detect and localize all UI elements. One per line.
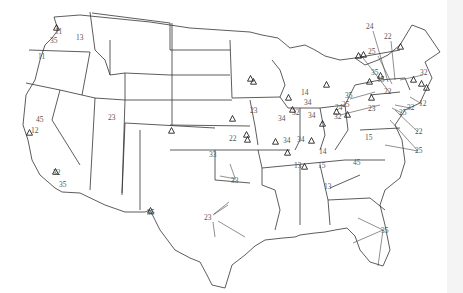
right-margin bbox=[447, 0, 463, 293]
site-value-label: 34 bbox=[283, 137, 291, 145]
site-value-label: 34 bbox=[278, 115, 286, 123]
site-value-label: 14 bbox=[319, 148, 327, 156]
site-value-label: 23 bbox=[108, 114, 116, 122]
site-value-label: 35 bbox=[59, 181, 67, 189]
site-value-label: 45 bbox=[353, 159, 361, 167]
site-value-label: 35 bbox=[381, 227, 389, 235]
site-value-label: 33 bbox=[209, 151, 217, 159]
site-value-label: 12 bbox=[419, 100, 427, 108]
state-borders bbox=[23, 12, 440, 288]
site-value-label: 15 bbox=[318, 162, 326, 170]
site-value-label: 22 bbox=[384, 33, 392, 41]
site-value-label: 25 bbox=[399, 109, 407, 117]
site-value-label: 25 bbox=[415, 147, 423, 155]
site-value-label: 32 bbox=[420, 69, 428, 77]
site-value-label: 22 bbox=[415, 128, 423, 136]
site-value-label: 23 bbox=[204, 214, 212, 222]
us-map bbox=[0, 0, 463, 293]
site-value-label: 25 bbox=[342, 101, 350, 109]
site-value-label: 14 bbox=[301, 89, 309, 97]
site-value-label: 35 bbox=[345, 92, 353, 100]
site-value-label: 33 bbox=[231, 177, 239, 185]
site-value-label: 11 bbox=[38, 53, 45, 61]
site-value-label: 22 bbox=[229, 135, 237, 143]
site-value-label: 32 bbox=[407, 104, 415, 112]
site-value-label: 34 bbox=[297, 136, 305, 144]
site-value-label: 13 bbox=[76, 34, 84, 42]
site-value-label: 24 bbox=[366, 23, 374, 31]
site-value-label: 13 bbox=[324, 183, 332, 191]
site-value-label: 25 bbox=[368, 48, 376, 56]
site-value-label: 34 bbox=[304, 99, 312, 107]
site-value-label: 35 bbox=[50, 37, 58, 45]
site-value-label: 22 bbox=[384, 88, 392, 96]
site-value-label: 34 bbox=[308, 112, 316, 120]
site-value-label: 23 bbox=[368, 105, 376, 113]
leader-lines bbox=[213, 31, 423, 266]
site-value-label: 45 bbox=[36, 116, 44, 124]
site-value-label: 15 bbox=[365, 134, 373, 142]
site-value-label: 23 bbox=[250, 107, 258, 115]
